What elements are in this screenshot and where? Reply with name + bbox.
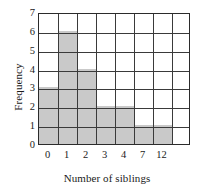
gridline-horizontal — [39, 52, 189, 53]
y-tick-label: 4 — [22, 64, 35, 76]
grid-layer — [39, 14, 189, 144]
gridline-vertical — [172, 14, 173, 144]
gridline-horizontal — [39, 33, 189, 34]
gridline-vertical — [115, 14, 116, 144]
plot-area — [38, 13, 190, 145]
gridline-horizontal — [39, 108, 189, 109]
x-tick-label: 4 — [114, 148, 133, 162]
y-tick-label: 7 — [22, 7, 35, 19]
gridline-vertical — [58, 14, 59, 144]
gridline-horizontal — [39, 89, 189, 90]
gridline-horizontal — [39, 127, 189, 128]
frequency-bar-chart: Frequency 01234567 01234712 Number of si… — [0, 0, 202, 192]
x-tick-label: 0 — [38, 148, 57, 162]
x-tick-label: 2 — [76, 148, 95, 162]
y-tick-label: 5 — [22, 45, 35, 57]
gridline-horizontal — [39, 71, 189, 72]
y-tick-label: 1 — [22, 120, 35, 132]
x-tick-label: 3 — [95, 148, 114, 162]
x-axis-title: Number of siblings — [24, 170, 190, 186]
gridline-vertical — [96, 14, 97, 144]
x-tick-label: 1 — [57, 148, 76, 162]
x-tick-label: 12 — [152, 148, 171, 162]
y-axis-tick-labels: 01234567 — [22, 13, 35, 145]
gridline-vertical — [77, 14, 78, 144]
x-tick-label: 7 — [133, 148, 152, 162]
gridline-vertical — [134, 14, 135, 144]
y-tick-label: 2 — [22, 101, 35, 113]
gridline-vertical — [153, 14, 154, 144]
y-tick-label: 3 — [22, 82, 35, 94]
y-tick-label: 6 — [22, 26, 35, 38]
x-axis-tick-labels: 01234712 — [38, 148, 190, 162]
y-tick-label: 0 — [22, 139, 35, 151]
